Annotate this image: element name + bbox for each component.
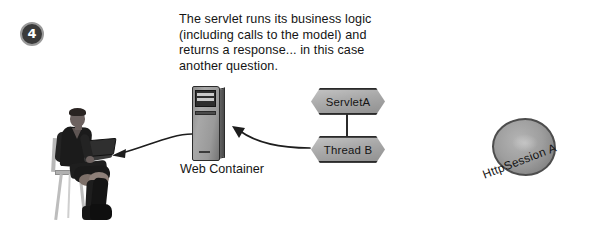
node-connector-line [346, 113, 348, 138]
tower-band [195, 111, 216, 115]
node-label: Thread B [311, 136, 385, 163]
chair-leg-left [54, 174, 62, 220]
tower-indicator [199, 151, 210, 153]
person-boot-near [90, 204, 112, 220]
response-arrow-icon [108, 132, 194, 164]
node-label: ServletA [311, 88, 385, 115]
web-container-illustration [186, 83, 232, 163]
node-thread-b: Thread B [311, 136, 385, 163]
tower-slot-upper [197, 93, 214, 96]
step-number-badge: 4 [20, 22, 44, 46]
person-hair [69, 108, 86, 116]
node-servlet-a: ServletA [311, 88, 385, 115]
http-session-illustration: HttpSession A [486, 112, 586, 202]
user-illustration [34, 108, 142, 226]
person-hand [86, 156, 94, 163]
request-arrow-icon [228, 124, 312, 158]
caption-text: The servlet runs its business logic (inc… [179, 12, 409, 74]
web-container-label: Web Container [167, 162, 277, 176]
tower-slot-lower [197, 98, 214, 101]
chair-leg-rear [67, 174, 71, 218]
diagram-canvas: 4 The servlet runs its business logic (i… [0, 0, 591, 230]
